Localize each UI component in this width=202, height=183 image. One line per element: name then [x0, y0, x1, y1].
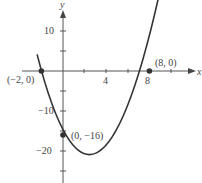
point-x-intercept-right — [147, 68, 153, 74]
label-point-right: (8, 0) — [155, 57, 177, 69]
y-axis-arrow-icon — [60, 10, 66, 18]
label-point-intercept: (0, −16) — [71, 130, 103, 142]
x-axis-label: x — [196, 66, 202, 77]
point-y-intercept — [60, 132, 66, 138]
parabola-chart: x y 4 8 10 −10 −20 (−2, 0) (8, 0) (0, −1… — [0, 0, 202, 183]
x-axis-arrow-icon — [188, 68, 196, 74]
y-axis-label: y — [59, 0, 65, 10]
point-x-intercept-left — [39, 68, 45, 74]
x-tick-label-4: 4 — [103, 75, 108, 86]
y-tick-label-neg20: −20 — [36, 145, 52, 156]
y-tick-label-10: 10 — [44, 25, 54, 36]
x-tick-label-8: 8 — [145, 75, 150, 86]
label-point-left: (−2, 0) — [7, 74, 34, 86]
y-tick-label-neg10: −10 — [38, 105, 54, 116]
